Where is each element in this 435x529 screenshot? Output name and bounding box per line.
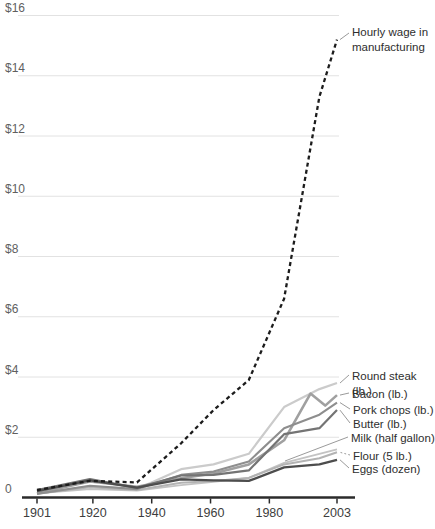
- x-tick-label: 1960: [197, 506, 225, 520]
- price-wage-line-chart: $16$14$12$10$8$6$4$201901192019401960198…: [0, 0, 435, 529]
- label-connector: [340, 410, 350, 423]
- y-tick-label: $6: [5, 302, 19, 316]
- x-tick-label: 1901: [23, 506, 51, 520]
- y-tick-label: $16: [5, 1, 25, 15]
- y-tick-label: $2: [5, 423, 19, 437]
- label-connector: [340, 403, 350, 409]
- x-tick-label: 1940: [138, 506, 166, 520]
- x-tick-label: 1920: [79, 506, 107, 520]
- label-connector: [340, 393, 349, 395]
- y-tick-label: 0: [5, 482, 12, 496]
- y-tick-label: $8: [5, 242, 19, 256]
- series-line-hourly: [37, 40, 337, 490]
- label-connector: [340, 460, 349, 468]
- series-label-butter: Butter (lb.): [353, 417, 407, 432]
- label-connector: [340, 375, 349, 383]
- series-label-milk: Milk (half gallon): [351, 431, 435, 446]
- label-connector: [340, 452, 350, 455]
- y-tick-label: $10: [5, 182, 25, 196]
- y-tick-label: $14: [5, 61, 25, 75]
- series-label-eggs: Eggs (dozen): [352, 462, 420, 477]
- series-label-bacon: Bacon (lb.): [352, 387, 408, 402]
- series-label-hourly-wage: Hourly wage in manufacturing: [352, 25, 428, 54]
- label-connector: [340, 33, 349, 40]
- label-connector: [285, 437, 348, 461]
- x-tick-label: 2003: [323, 506, 351, 520]
- x-tick-label: 1980: [255, 506, 283, 520]
- y-tick-label: $12: [5, 122, 25, 136]
- y-tick-label: $4: [5, 363, 19, 377]
- series-label-pork-chops: Pork chops (lb.): [353, 403, 434, 418]
- series-line-bacon: [37, 394, 337, 494]
